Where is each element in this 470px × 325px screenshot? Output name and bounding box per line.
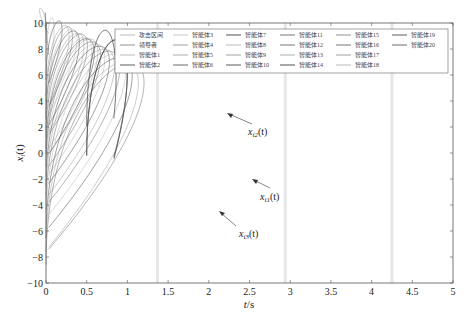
y-tick-label: 10 bbox=[33, 18, 43, 29]
x-tick-label: 4.5 bbox=[406, 286, 419, 297]
legend-label: 智能体4 bbox=[192, 41, 213, 49]
x-tick-label: 5 bbox=[451, 286, 456, 297]
annotation-x-i1: xi1(t) bbox=[252, 179, 279, 204]
legend-label: 攻击区间 bbox=[139, 31, 163, 39]
x-tick-label: 2.5 bbox=[243, 286, 256, 297]
legend: 攻击区间领导者智能体1智能体2智能体3智能体4智能体5智能体6智能体7智能体8智… bbox=[115, 29, 448, 73]
y-tick-label: 0 bbox=[38, 148, 43, 159]
legend-label: 智能体2 bbox=[139, 61, 160, 69]
legend-label: 领导者 bbox=[139, 41, 157, 49]
legend-label: 智能体11 bbox=[299, 31, 323, 39]
agent-curve bbox=[46, 51, 120, 210]
y-tick-label: −6 bbox=[32, 226, 43, 237]
svg-text:xi2(t): xi2(t) bbox=[247, 126, 267, 139]
svg-text:xi3(t): xi3(t) bbox=[238, 228, 258, 241]
legend-label: 智能体14 bbox=[299, 61, 323, 69]
x-tick-label: 3.5 bbox=[325, 286, 338, 297]
line-chart: 00.511.522.533.544.55 −10−8−6−4−20246810… bbox=[0, 0, 470, 325]
annotation-x-i2: xi2(t) bbox=[227, 113, 267, 139]
legend-label: 智能体13 bbox=[299, 51, 323, 59]
y-tick-label: −4 bbox=[32, 200, 43, 211]
x-tick-label: 0 bbox=[44, 286, 49, 297]
annotation-x-i3: xi3(t) bbox=[219, 211, 258, 241]
y-axis-label: xi(t) bbox=[13, 144, 27, 163]
y-tick-label: 2 bbox=[38, 122, 43, 133]
legend-label: 智能体6 bbox=[192, 61, 213, 69]
y-tick-label: −10 bbox=[27, 278, 43, 289]
y-tick-label: 8 bbox=[38, 44, 43, 55]
y-tick-label: −2 bbox=[32, 174, 43, 185]
legend-label: 智能体5 bbox=[192, 51, 213, 59]
x-tick-label: 2 bbox=[206, 286, 211, 297]
x-tick-label: 1.5 bbox=[162, 286, 175, 297]
legend-label: 智能体9 bbox=[245, 51, 266, 59]
legend-label: 智能体12 bbox=[299, 41, 323, 49]
x-axis-label: t/s bbox=[244, 298, 254, 310]
x-tick-label: 0.5 bbox=[80, 286, 93, 297]
legend-label: 智能体3 bbox=[192, 31, 213, 39]
legend-label: 智能体17 bbox=[355, 51, 379, 59]
agent-curve bbox=[46, 46, 109, 187]
legend-label: 智能体10 bbox=[245, 61, 269, 69]
legend-label: 智能体15 bbox=[355, 31, 379, 39]
legend-label: 智能体19 bbox=[411, 31, 435, 39]
legend-label: 智能体16 bbox=[355, 41, 379, 49]
x-tick-label: 3 bbox=[288, 286, 293, 297]
legend-label: 智能体8 bbox=[245, 41, 266, 49]
legend-label: 智能体1 bbox=[139, 51, 160, 59]
y-tick-label: 6 bbox=[38, 70, 43, 81]
legend-label: 智能体20 bbox=[411, 41, 435, 49]
y-tick-label: 4 bbox=[38, 96, 43, 107]
x-tick-label: 1 bbox=[125, 286, 130, 297]
legend-label: 智能体18 bbox=[355, 61, 379, 69]
y-tick-label: −8 bbox=[32, 252, 43, 263]
legend-label: 智能体7 bbox=[245, 31, 266, 39]
x-tick-label: 4 bbox=[369, 286, 374, 297]
svg-text:xi1(t): xi1(t) bbox=[259, 191, 279, 204]
